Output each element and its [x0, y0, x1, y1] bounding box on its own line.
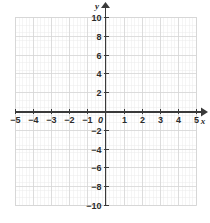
- coordinate-grid-svg: −5−4−3−2−1012345 108642−2−4−6−8−10 x y: [0, 0, 210, 223]
- x-tick-label: −3: [46, 115, 56, 125]
- coordinate-plane: −5−4−3−2−1012345 108642−2−4−6−8−10 x y: [0, 0, 210, 223]
- x-tick-label: 5: [194, 115, 199, 125]
- x-tick-label: −2: [64, 115, 74, 125]
- x-tick-label: −1: [82, 115, 92, 125]
- y-tick-label: −10: [86, 201, 101, 211]
- x-tick-label: 2: [140, 115, 145, 125]
- y-tick-label: 6: [96, 51, 101, 61]
- y-tick-label: −6: [91, 163, 101, 173]
- y-tick-label: 8: [96, 32, 101, 42]
- x-tick-label: 3: [158, 115, 163, 125]
- y-tick-label: −4: [91, 145, 101, 155]
- x-tick-label: −4: [28, 115, 38, 125]
- y-tick-label: 10: [91, 13, 101, 23]
- x-tick-label: 0: [98, 115, 103, 125]
- y-tick-label: −8: [91, 182, 101, 192]
- x-axis-label: x: [200, 116, 206, 126]
- x-tick-label: 4: [176, 115, 181, 125]
- y-axis-arrow-icon: [101, 2, 110, 8]
- y-axis-label: y: [94, 1, 100, 11]
- y-tick-label: 2: [96, 88, 101, 98]
- x-tick-label: 1: [122, 115, 127, 125]
- y-tick-label: −2: [91, 126, 101, 136]
- x-tick-label: −5: [10, 115, 20, 125]
- y-tick-label: 4: [96, 69, 101, 79]
